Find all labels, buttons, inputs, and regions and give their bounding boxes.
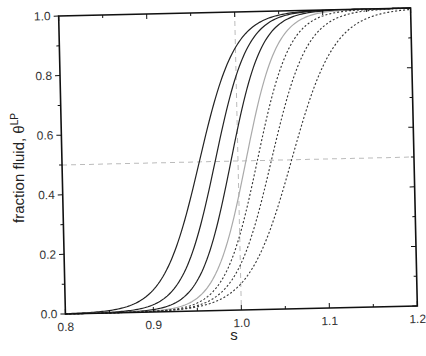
reference-lines [59, 8, 418, 314]
chart: 0.80.91.01.11.2 0.00.20.40.60.81.0 s fra… [0, 0, 426, 356]
y-axis-label-main: fraction fluid, θ [10, 125, 27, 223]
x-axis-ticks: 0.80.91.01.11.2 [50, 8, 426, 334]
y-tick-label: 1.0 [34, 9, 51, 23]
x-tick-label: 0.8 [57, 320, 74, 334]
y-axis-label: fraction fluid, θLP [9, 113, 27, 223]
y-tick-label: 0.6 [37, 128, 54, 142]
x-tick-label: 1.2 [409, 312, 426, 326]
plot-group: 0.80.91.01.11.2 0.00.20.40.60.81.0 [34, 1, 426, 335]
y-axis-label-superscript: LP [9, 113, 20, 126]
x-axis-label: s [230, 326, 238, 343]
x-tick-label: 1.1 [321, 314, 338, 328]
x-tick-label: 0.9 [145, 318, 162, 332]
y-tick-label: 0.2 [39, 248, 56, 262]
y-tick-label: 0.0 [41, 307, 58, 321]
curve-7-line [59, 9, 418, 313]
y-tick-label: 0.8 [35, 69, 52, 83]
y-tick-label: 0.4 [38, 188, 55, 202]
